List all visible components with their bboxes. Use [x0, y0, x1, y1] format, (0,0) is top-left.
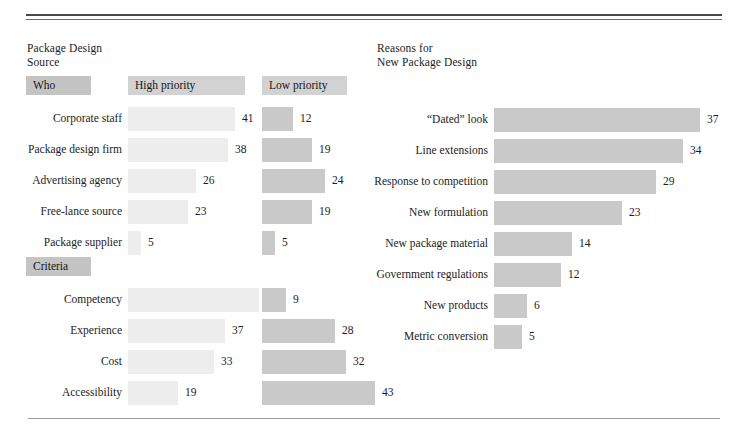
top-double-rule	[26, 14, 722, 21]
top-rule-thick	[26, 14, 722, 16]
bar-value-high-priority: 33	[221, 354, 233, 369]
right-panel-title: Reasons for New Package Design	[377, 42, 477, 69]
bar-value-low-priority: 32	[353, 354, 365, 369]
bar-value-high-priority: 19	[185, 385, 197, 400]
table-row: Accessibility1943	[0, 381, 374, 405]
row-label: Response to competition	[0, 174, 488, 189]
figure-page: Package Design Source Reasons for New Pa…	[0, 0, 748, 439]
column-header-high-priority: High priority	[128, 76, 245, 95]
table-row: New formulation23	[0, 201, 748, 225]
left-panel-title: Package Design Source	[27, 42, 102, 69]
bar-low-priority	[262, 381, 375, 405]
table-row: “Dated” look37	[0, 108, 748, 132]
row-label: Cost	[101, 354, 122, 369]
table-row: Cost3332	[0, 350, 374, 374]
bar-reason	[494, 108, 700, 132]
bar-reason	[494, 294, 527, 318]
bottom-rule	[28, 418, 720, 419]
bar-value-reason: 12	[568, 267, 580, 282]
bar-value-reason: 29	[663, 174, 675, 189]
bar-reason	[494, 201, 622, 225]
bar-reason	[494, 170, 656, 194]
bar-high-priority	[128, 381, 178, 405]
bar-reason	[494, 139, 683, 163]
row-label: Line extensions	[0, 143, 488, 158]
table-row: Metric conversion5	[0, 325, 748, 349]
section-header-who: Who	[26, 76, 91, 95]
column-header-low-priority: Low priority	[262, 76, 347, 95]
table-row: Government regulations12	[0, 263, 748, 287]
bar-value-reason: 6	[534, 298, 540, 313]
table-row: New package material14	[0, 232, 748, 256]
row-label: Metric conversion	[0, 329, 488, 344]
bar-value-reason: 5	[529, 329, 535, 344]
bar-reason	[494, 232, 572, 256]
table-row: Response to competition29	[0, 170, 748, 194]
bar-reason	[494, 325, 522, 349]
row-label: Government regulations	[0, 267, 488, 282]
bar-reason	[494, 263, 561, 287]
bar-value-reason: 23	[629, 205, 641, 220]
bar-low-priority	[262, 350, 346, 374]
row-label: New formulation	[0, 205, 488, 220]
bar-value-reason: 37	[707, 112, 719, 127]
table-row: New products6	[0, 294, 748, 318]
row-label: “Dated” look	[0, 112, 488, 127]
bar-value-reason: 14	[579, 236, 591, 251]
bar-value-low-priority: 43	[382, 385, 394, 400]
bar-value-reason: 34	[690, 143, 702, 158]
row-label: New products	[0, 298, 488, 313]
top-rule-thin	[26, 19, 722, 20]
row-label: New package material	[0, 236, 488, 251]
row-label: Accessibility	[62, 385, 122, 400]
bar-high-priority	[128, 350, 214, 374]
table-row: Line extensions34	[0, 139, 748, 163]
